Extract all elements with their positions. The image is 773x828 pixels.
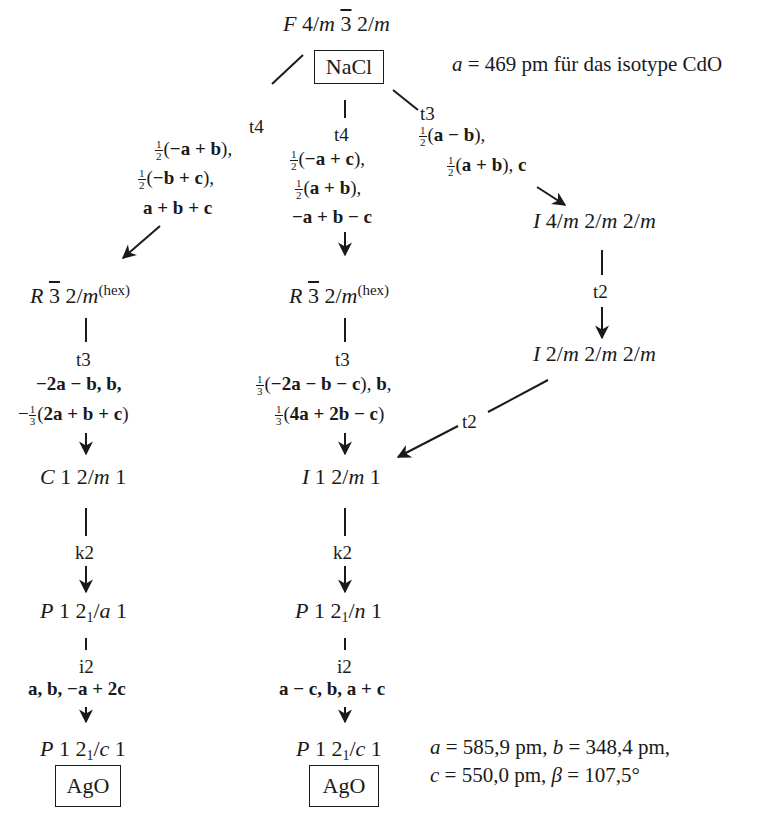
middle-t4-index: t4 [334, 125, 349, 144]
middle-k2-index: k2 [333, 543, 352, 562]
middle-g2-space-group: I 1 2/m 1 [302, 466, 381, 488]
left-k2-index: k2 [75, 543, 94, 562]
final-parameters-line-1: a = 585,9 pm, b = 348,4 pm, [430, 737, 670, 758]
middle-compound-box: AgO [309, 765, 379, 807]
right-t3-transformation-2: 12(a + b), c [447, 153, 527, 178]
left-compound-box: AgO [55, 765, 121, 807]
line-immm-t2 [488, 380, 548, 412]
right-t2-to-middle-index: t2 [462, 412, 477, 431]
final-parameters-line-2: c = 550,0 pm, β = 107,5° [430, 765, 640, 786]
middle-compound: AgO [323, 773, 366, 798]
middle-i2-transformation: a − c, b, a + c [279, 677, 385, 701]
middle-t4-transformation-3: −a + b − c [292, 205, 372, 229]
middle-t4-transformation-1: 12(−a + c), [290, 147, 365, 172]
left-t3-transformation-1: −2a − b, b, [36, 372, 122, 396]
line-nacl-right [393, 90, 418, 110]
middle-i2-index: i2 [337, 657, 352, 676]
left-t4-transformation-2: 12(−b + c), [138, 166, 214, 191]
middle-hex-label: (hex) [357, 282, 389, 298]
middle-g1-space-group: R 3 2/m(hex) [289, 283, 389, 307]
arrow-to-i12m1 [398, 426, 458, 457]
left-hex-label: (hex) [98, 282, 130, 298]
left-t4-transformation-3: a + b + c [143, 196, 212, 220]
line-nacl-left [272, 55, 303, 84]
right-g1-space-group: I 4/m 2/m 2/m [533, 210, 656, 232]
left-compound: AgO [67, 773, 110, 798]
left-i2-index: i2 [79, 657, 94, 676]
middle-t3-transformation-2: 13(4a + 2b − c) [275, 402, 384, 427]
left-g1-space-group: R 3 2/m(hex) [30, 283, 130, 307]
right-t3-index: t3 [420, 104, 435, 123]
middle-t3-index: t3 [335, 350, 350, 369]
root-parameter-note: a = 469 pm für das isotype CdO [452, 54, 722, 75]
left-g2-space-group: C 1 2/m 1 [40, 466, 126, 488]
middle-t3-transformation-1: 13(−2a − b − c), b, [256, 372, 391, 397]
left-t3-transformation-2: −13(2a + b + c) [18, 402, 129, 427]
middle-g4-space-group: P 1 21/c 1 [296, 738, 382, 763]
middle-t4-transformation-2: 12(a + b), [295, 176, 361, 201]
left-t4-transformation-1: 12(−a + b), [155, 137, 232, 162]
right-g2-space-group: I 2/m 2/m 2/m [533, 343, 656, 365]
root-space-group: F 4/m 3 2/m [283, 13, 390, 35]
left-g3-space-group: P 1 21/a 1 [40, 600, 127, 625]
left-g4-space-group: P 1 21/c 1 [40, 738, 126, 763]
root-compound-box: NaCl [314, 50, 384, 84]
right-t2-index: t2 [593, 282, 608, 301]
arrow-to-left-r3m [123, 226, 160, 258]
arrow-to-i4mmm [537, 187, 565, 205]
left-i2-transformation: a, b, −a + 2c [28, 677, 126, 701]
left-t4-index: t4 [249, 117, 264, 136]
middle-g3-space-group: P 1 21/n 1 [295, 600, 382, 625]
right-t3-transformation-1: 12(a − b), [419, 123, 485, 148]
left-t3-index: t3 [76, 350, 91, 369]
root-compound: NaCl [326, 54, 372, 79]
